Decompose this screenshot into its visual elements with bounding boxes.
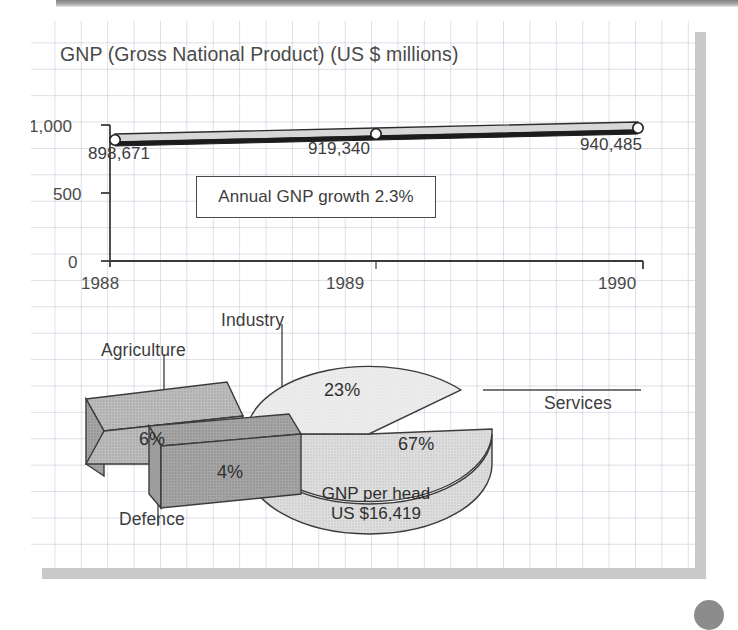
y-axis-tick-label-1000: 1,000 bbox=[31, 117, 72, 137]
pie-percent-agriculture: 6% bbox=[139, 429, 165, 450]
data-point-1989 bbox=[371, 129, 381, 139]
data-label-1990: 940,485 bbox=[580, 135, 642, 155]
y-axis-tick-label-500: 500 bbox=[53, 185, 82, 205]
pie-label-industry: Industry bbox=[221, 310, 284, 331]
gnp-sector-pie-chart: 23% 67% 6% 4% Industry Agriculture Servi… bbox=[31, 286, 695, 568]
gnp-line-chart: 1,000 500 0 1988 1989 1990 898,671 919,3… bbox=[31, 81, 695, 281]
data-point-1990 bbox=[633, 123, 643, 133]
pie-percent-services: 67% bbox=[398, 434, 434, 455]
gnp-per-head-note: GNP per head US $16,419 bbox=[281, 484, 471, 524]
page-title: GNP (Gross National Product) (US $ milli… bbox=[60, 43, 458, 66]
data-label-1988: 898,671 bbox=[88, 144, 150, 164]
pie-label-defence: Defence bbox=[119, 509, 185, 530]
gnp-per-head-note-line1: GNP per head bbox=[281, 484, 471, 504]
y-axis-tick-label-0: 0 bbox=[68, 253, 78, 273]
pie-label-agriculture: Agriculture bbox=[101, 340, 186, 361]
gnp-growth-annotation-label: Annual GNP growth 2.3% bbox=[218, 187, 414, 207]
page-number-mark bbox=[694, 600, 724, 630]
pie-label-services: Services bbox=[544, 393, 612, 414]
pie-percent-defence: 4% bbox=[217, 462, 243, 483]
chart-panel: GNP (Gross National Product) (US $ milli… bbox=[31, 21, 695, 568]
gnp-growth-annotation-box: Annual GNP growth 2.3% bbox=[196, 176, 436, 218]
data-label-1989: 919,340 bbox=[308, 139, 370, 159]
scan-edge-band bbox=[56, 0, 738, 7]
pie-percent-industry: 23% bbox=[324, 380, 360, 401]
gnp-per-head-note-line2: US $16,419 bbox=[281, 504, 471, 524]
